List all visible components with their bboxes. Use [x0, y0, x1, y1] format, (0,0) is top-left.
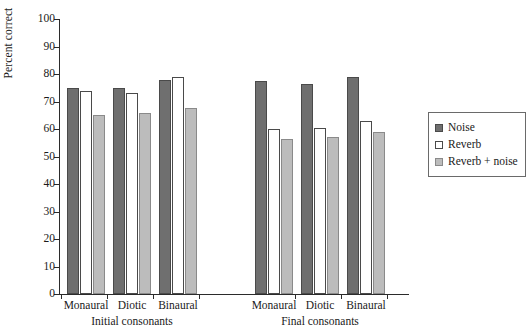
bar — [159, 80, 171, 295]
legend-item-label: Reverb — [448, 138, 481, 151]
y-axis-tick-label: 20 — [27, 231, 55, 246]
y-axis-tick-label: 10 — [27, 259, 55, 274]
bar — [347, 77, 359, 294]
bar — [172, 77, 184, 294]
y-axis-tick-label: 40 — [27, 176, 55, 191]
legend-swatch-icon — [435, 124, 443, 132]
y-axis-tick-label: 50 — [27, 149, 55, 164]
y-axis-tick-label: 80 — [27, 66, 55, 81]
bar — [268, 129, 280, 294]
y-axis-tick-label: 70 — [27, 94, 55, 109]
legend-item-label: Reverb + noise — [448, 155, 518, 168]
bar — [301, 84, 313, 294]
bar — [360, 121, 372, 294]
legend-swatch-icon — [435, 141, 443, 149]
y-axis-tick-label: 90 — [27, 39, 55, 54]
legend-item-label: Noise — [448, 121, 475, 134]
x-axis-category-label: Binaural — [326, 299, 406, 311]
bar — [373, 132, 385, 294]
bar — [80, 91, 92, 295]
bar — [281, 139, 293, 294]
x-axis-group-label: Final consonants — [250, 315, 390, 327]
legend-item: Reverb + noise — [435, 153, 518, 170]
bar — [185, 108, 197, 294]
y-axis-tick-label: 60 — [27, 121, 55, 136]
bar — [67, 88, 79, 294]
chart-legend: NoiseReverbReverb + noise — [428, 112, 526, 177]
bar-chart: Percent correct 1009080706050403020100 M… — [0, 0, 527, 336]
x-axis-category-label: Binaural — [138, 299, 218, 311]
legend-swatch-icon — [435, 158, 443, 166]
bar — [314, 128, 326, 294]
bar — [139, 113, 151, 295]
bar — [255, 81, 267, 294]
legend-item: Reverb — [435, 136, 518, 153]
x-axis-line — [59, 294, 409, 295]
plot-area: 1009080706050403020100 — [59, 19, 408, 294]
legend-item: Noise — [435, 119, 518, 136]
y-axis-tick-label: 30 — [27, 204, 55, 219]
bar — [93, 115, 105, 294]
x-axis-group-label: Initial consonants — [62, 315, 202, 327]
y-axis-title: Percent correct — [2, 0, 18, 123]
y-axis-tick-label: 100 — [27, 11, 55, 26]
bar — [126, 93, 138, 294]
bar — [327, 137, 339, 294]
bar — [113, 88, 125, 294]
